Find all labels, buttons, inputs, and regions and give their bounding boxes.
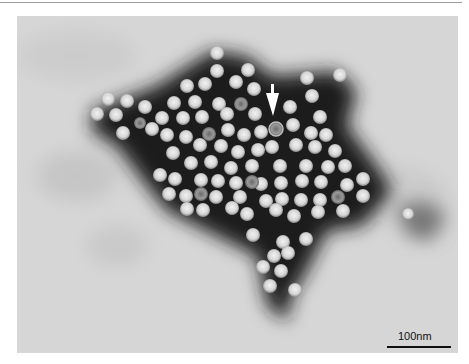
top-rule <box>0 2 462 3</box>
micrograph-image <box>17 16 458 353</box>
micrograph-svg <box>17 16 458 353</box>
scale-bar <box>387 346 451 348</box>
scale-bar-label: 100nm <box>398 330 432 342</box>
